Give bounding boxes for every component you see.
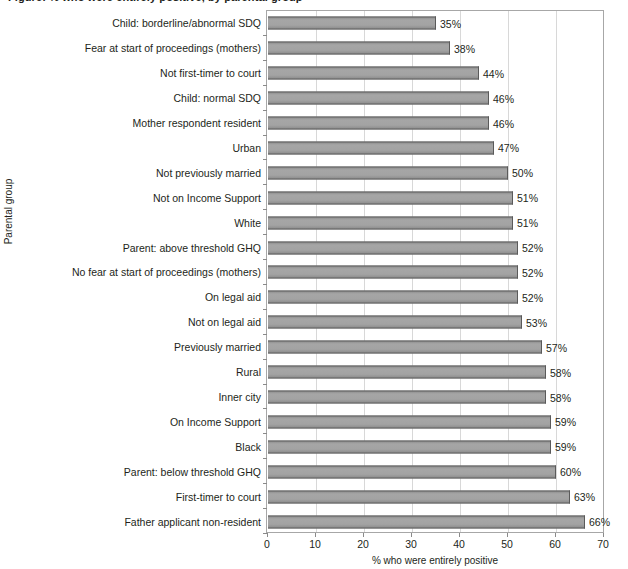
category-label: On Income Support (9, 416, 261, 428)
bar-row: Black59% (267, 434, 603, 459)
category-label: Child: normal SDQ (9, 92, 261, 104)
bar: 58% (268, 391, 546, 404)
category-label: No fear at start of proceedings (mothers… (9, 266, 261, 278)
bar-value-label: 60% (560, 466, 581, 478)
x-axis-tick (411, 533, 412, 537)
bar-value-label: 44% (483, 67, 504, 79)
category-label: Fear at start of proceedings (mothers) (9, 42, 261, 54)
bar-value-label: 53% (526, 316, 547, 328)
bar: 35% (268, 17, 436, 30)
x-axis-tick (603, 533, 604, 537)
bar: 46% (268, 117, 489, 130)
bar-value-label: 46% (493, 117, 514, 129)
bar-row: Urban47% (267, 136, 603, 161)
bar: 59% (268, 440, 551, 453)
x-axis-tick-label: 40 (439, 538, 479, 550)
bar-value-label: 52% (522, 242, 543, 254)
bar-row: Fear at start of proceedings (mothers)38… (267, 36, 603, 61)
bar-value-label: 51% (517, 217, 538, 229)
category-label: White (9, 217, 261, 229)
bar-value-label: 46% (493, 92, 514, 104)
bar-value-label: 57% (546, 341, 567, 353)
category-label: Not on Income Support (9, 192, 261, 204)
bar: 46% (268, 92, 489, 105)
bar-value-label: 52% (522, 291, 543, 303)
bar-row: Rural58% (267, 360, 603, 385)
category-label: Rural (9, 366, 261, 378)
bar-row: Not on Income Support51% (267, 185, 603, 210)
category-label: Urban (9, 142, 261, 154)
category-label: First-timer to court (9, 491, 261, 503)
category-label: Not first-timer to court (9, 67, 261, 79)
bar-row: Inner city58% (267, 385, 603, 410)
x-axis-tick-label: 20 (343, 538, 383, 550)
bar-row: Mother respondent resident46% (267, 111, 603, 136)
category-label: Not on legal aid (9, 316, 261, 328)
category-label: Parent: below threshold GHQ (9, 466, 261, 478)
bar: 63% (268, 490, 570, 503)
bar-value-label: 58% (550, 391, 571, 403)
x-axis-tick (363, 533, 364, 537)
bar: 52% (268, 241, 518, 254)
x-axis-tick-label: 10 (295, 538, 335, 550)
bar-value-label: 52% (522, 266, 543, 278)
bar: 52% (268, 291, 518, 304)
x-axis-tick-label: 60 (535, 538, 575, 550)
bar: 44% (268, 67, 479, 80)
x-axis-tick (315, 533, 316, 537)
bar-value-label: 59% (555, 441, 576, 453)
bar-row: Father applicant non-resident66% (267, 509, 603, 534)
x-axis: % who were entirely positive 01020304050… (266, 533, 604, 569)
bar-row: Not on legal aid53% (267, 310, 603, 335)
bar-value-label: 51% (517, 192, 538, 204)
bar: 58% (268, 366, 546, 379)
x-axis-tick (459, 533, 460, 537)
x-axis-tick (555, 533, 556, 537)
bar-row: First-timer to court63% (267, 484, 603, 509)
bar: 57% (268, 341, 542, 354)
bar-value-label: 50% (512, 167, 533, 179)
bar-value-label: 35% (440, 17, 461, 29)
bar: 52% (268, 266, 518, 279)
x-axis-tick (507, 533, 508, 537)
bar: 51% (268, 216, 513, 229)
bar-rows: Child: borderline/abnormal SDQ35%Fear at… (267, 11, 603, 532)
bar: 38% (268, 42, 450, 55)
bar-row: Child: borderline/abnormal SDQ35% (267, 11, 603, 36)
plot-area: Child: borderline/abnormal SDQ35%Fear at… (266, 10, 604, 533)
bar: 59% (268, 415, 551, 428)
bar-row: Parent: above threshold GHQ52% (267, 235, 603, 260)
x-axis-tick-label: 50 (487, 538, 527, 550)
x-axis-tick-label: 0 (247, 538, 287, 550)
bar-value-label: 58% (550, 366, 571, 378)
category-label: Previously married (9, 341, 261, 353)
category-label: Black (9, 441, 261, 453)
bar-row: Previously married57% (267, 335, 603, 360)
bar-chart-figure: Figure: % who were entirely positive, by… (0, 0, 628, 569)
bar-row: Not first-timer to court44% (267, 61, 603, 86)
bar-row: Child: normal SDQ46% (267, 86, 603, 111)
bar-value-label: 47% (498, 142, 519, 154)
bar-value-label: 66% (589, 516, 610, 528)
x-axis-tick-label: 70 (583, 538, 623, 550)
x-axis-title: % who were entirely positive (266, 555, 604, 566)
category-label: On legal aid (9, 291, 261, 303)
category-label: Child: borderline/abnormal SDQ (9, 17, 261, 29)
bar-value-label: 59% (555, 416, 576, 428)
x-axis-tick (267, 533, 268, 537)
bar-row: On Income Support59% (267, 409, 603, 434)
category-label: Mother respondent resident (9, 117, 261, 129)
bar-value-label: 38% (454, 42, 475, 54)
x-axis-tick-label: 30 (391, 538, 431, 550)
bar: 60% (268, 465, 556, 478)
bar-row: White51% (267, 210, 603, 235)
bar-row: No fear at start of proceedings (mothers… (267, 260, 603, 285)
figure-caption: Figure: % who were entirely positive, by… (8, 0, 620, 3)
bar: 51% (268, 191, 513, 204)
bar: 47% (268, 141, 494, 154)
bar-row: Parent: below threshold GHQ60% (267, 459, 603, 484)
bar: 66% (268, 515, 585, 528)
category-label: Inner city (9, 391, 261, 403)
bar: 53% (268, 316, 522, 329)
bar-value-label: 63% (574, 491, 595, 503)
